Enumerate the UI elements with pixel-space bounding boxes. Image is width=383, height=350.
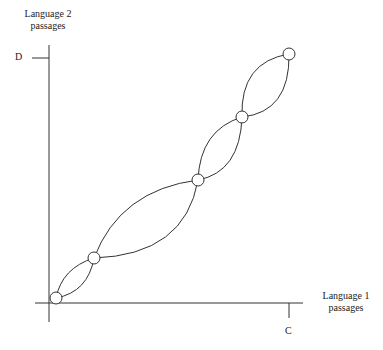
diagram-canvas [0, 0, 383, 350]
node-2 [88, 252, 100, 264]
curve-lower-4 [242, 54, 289, 117]
curve-upper-1 [56, 258, 94, 298]
curve-lower-1 [56, 258, 94, 298]
curve-upper-4 [242, 54, 289, 117]
node-5 [283, 48, 295, 60]
node-3 [192, 174, 204, 186]
node-4 [236, 111, 248, 123]
curve-lower-2 [94, 180, 198, 258]
node-1 [50, 292, 62, 304]
